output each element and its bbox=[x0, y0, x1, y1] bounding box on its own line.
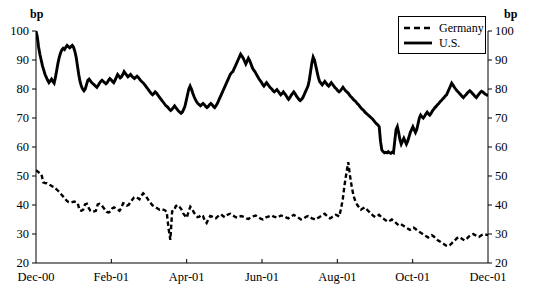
y-tick-label-right-100: 100 bbox=[495, 25, 523, 38]
y-tick-label-left-60: 60 bbox=[3, 141, 29, 154]
y-tick-label-right-80: 80 bbox=[495, 83, 523, 96]
x-tick-label-dec-01: Dec-01 bbox=[453, 271, 523, 284]
y-tick-label-right-60: 60 bbox=[495, 141, 523, 154]
y-tick-label-left-20: 20 bbox=[3, 257, 29, 270]
solid-line-icon bbox=[403, 38, 433, 48]
y-tick-label-left-80: 80 bbox=[3, 83, 29, 96]
x-tick-label-aug-01: Aug-01 bbox=[302, 271, 372, 284]
x-tick-label-jun-01: Jun-01 bbox=[227, 271, 297, 284]
y-tick-label-left-40: 40 bbox=[3, 199, 29, 212]
legend-label-germany: Germany bbox=[439, 22, 484, 34]
y-tick-label-right-50: 50 bbox=[495, 170, 523, 183]
y-tick-label-left-50: 50 bbox=[3, 170, 29, 183]
y-tick-label-left-90: 90 bbox=[3, 54, 29, 67]
x-tick-label-oct-01: Oct-01 bbox=[378, 271, 448, 284]
y-tick-label-right-40: 40 bbox=[495, 199, 523, 212]
y-tick-label-right-90: 90 bbox=[495, 54, 523, 67]
y-tick-label-left-100: 100 bbox=[3, 25, 29, 38]
y-tick-label-left-30: 30 bbox=[3, 228, 29, 241]
legend-item-germany: Germany bbox=[403, 20, 481, 35]
legend-item-us: U.S. bbox=[403, 35, 481, 50]
x-tick-label-dec-00: Dec-00 bbox=[1, 271, 71, 284]
legend-label-us: U.S. bbox=[439, 37, 460, 49]
y-tick-label-right-30: 30 bbox=[495, 228, 523, 241]
series-line-germany bbox=[36, 162, 488, 246]
x-tick-label-feb-01: Feb-01 bbox=[76, 271, 146, 284]
y-tick-label-right-20: 20 bbox=[495, 257, 523, 270]
y-tick-label-right-70: 70 bbox=[495, 112, 523, 125]
dashed-line-icon bbox=[403, 23, 433, 33]
chart-container: bp bp Germany U.S. 202030304040505060607… bbox=[0, 0, 552, 298]
chart-legend: Germany U.S. bbox=[398, 16, 486, 54]
y-tick-label-left-70: 70 bbox=[3, 112, 29, 125]
x-tick-label-apr-01: Apr-01 bbox=[152, 271, 222, 284]
